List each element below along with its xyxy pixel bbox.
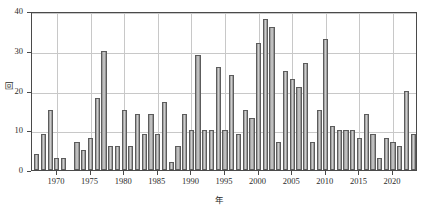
- y-tick-label: 0: [0, 166, 23, 175]
- bar: [88, 138, 93, 170]
- bar: [189, 130, 194, 170]
- x-tick-mark: [90, 171, 91, 175]
- bar: [41, 134, 46, 170]
- y-tick-label: 20: [0, 87, 23, 96]
- bar: [377, 158, 382, 170]
- bar: [276, 142, 281, 170]
- bar: [128, 146, 133, 170]
- x-tick-mark: [123, 171, 124, 175]
- bar: [222, 130, 227, 170]
- bar: [350, 130, 355, 170]
- bar: [357, 138, 362, 170]
- bar: [202, 130, 207, 170]
- bar: [296, 87, 301, 170]
- plot-area: [31, 12, 417, 171]
- bar: [169, 162, 174, 170]
- bar: [411, 134, 416, 170]
- bar: [108, 146, 113, 170]
- bar: [323, 39, 328, 170]
- bar: [142, 134, 147, 170]
- bar: [135, 114, 140, 170]
- x-tick-label: 1980: [106, 177, 140, 186]
- bar: [290, 79, 295, 170]
- bar: [216, 67, 221, 170]
- x-tick-label: 2005: [274, 177, 308, 186]
- y-tick-label: 40: [0, 7, 23, 16]
- bar: [236, 134, 241, 170]
- x-tick-label: 1990: [173, 177, 207, 186]
- bar: [148, 114, 153, 170]
- bar: [317, 110, 322, 170]
- x-tick-label: 2015: [341, 177, 375, 186]
- x-tick-label: 2010: [308, 177, 342, 186]
- x-tick-mark: [190, 171, 191, 175]
- bar: [74, 142, 79, 170]
- x-tick-label: 1970: [39, 177, 73, 186]
- x-tick-mark: [392, 171, 393, 175]
- bar: [182, 114, 187, 170]
- bar: [343, 130, 348, 170]
- x-tick-label: 1985: [140, 177, 174, 186]
- x-tick-mark: [358, 171, 359, 175]
- bar: [390, 142, 395, 170]
- x-tick-mark: [258, 171, 259, 175]
- bar: [155, 134, 160, 170]
- bar-series: [32, 13, 416, 170]
- x-tick-label: 2000: [241, 177, 275, 186]
- bar: [364, 114, 369, 170]
- bar: [95, 98, 100, 170]
- bar: [101, 51, 106, 170]
- x-tick-mark: [157, 171, 158, 175]
- x-tick-mark: [325, 171, 326, 175]
- bar: [54, 158, 59, 170]
- bar: [195, 55, 200, 170]
- x-tick-mark: [56, 171, 57, 175]
- x-tick-label: 1975: [73, 177, 107, 186]
- bar: [397, 146, 402, 170]
- bar: [269, 27, 274, 170]
- bar: [209, 130, 214, 170]
- bar: [243, 110, 248, 170]
- x-axis-label: 年: [0, 193, 438, 205]
- bar: [256, 43, 261, 170]
- bar: [162, 102, 167, 170]
- bar: [404, 91, 409, 171]
- bar: [48, 110, 53, 170]
- bar: [310, 142, 315, 170]
- bar: [229, 75, 234, 170]
- bar: [81, 150, 86, 170]
- bar: [263, 19, 268, 170]
- x-tick-label: 2020: [375, 177, 409, 186]
- x-tick-label: 1995: [207, 177, 241, 186]
- bar: [122, 110, 127, 170]
- bar: [330, 126, 335, 170]
- bar: [370, 134, 375, 170]
- bar: [61, 158, 66, 170]
- bar-chart: 回 年 010203040 19701975198019851990199520…: [0, 0, 438, 220]
- y-tick-label: 30: [0, 47, 23, 56]
- x-tick-mark: [224, 171, 225, 175]
- x-tick-mark: [291, 171, 292, 175]
- bar: [175, 146, 180, 170]
- bar: [283, 71, 288, 170]
- bar: [303, 63, 308, 170]
- y-tick-label: 10: [0, 126, 23, 135]
- bar: [337, 130, 342, 170]
- bar: [115, 146, 120, 170]
- bar: [34, 154, 39, 170]
- bar: [249, 118, 254, 170]
- y-tick-mark: [27, 171, 31, 172]
- bar: [384, 138, 389, 170]
